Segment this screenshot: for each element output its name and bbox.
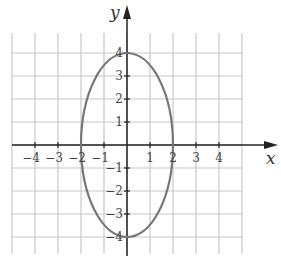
y-tick-label: −1 [105,161,123,175]
chart: −4−3−2−112344321−1−2−3−4 x y [0,0,281,256]
y-tick-label: 4 [115,46,123,60]
y-tick-label: 1 [115,115,123,129]
x-tick-label: −2 [68,151,86,165]
y-tick-label: −2 [105,184,123,198]
y-axis-label: y [109,2,120,22]
x-tick-label: 4 [215,151,223,165]
y-tick-label: −3 [105,207,123,221]
x-tick-label: −3 [45,151,63,165]
x-axis-label: x [266,148,276,168]
axes [12,5,278,256]
x-tick-label: 3 [192,151,200,165]
x-tick-label: 2 [169,151,177,165]
y-tick-label: −4 [105,230,123,244]
y-tick-label: 2 [115,92,123,106]
x-tick-label: 1 [146,151,154,165]
x-tick-label: −4 [22,151,40,165]
y-tick-label: 3 [115,69,123,83]
